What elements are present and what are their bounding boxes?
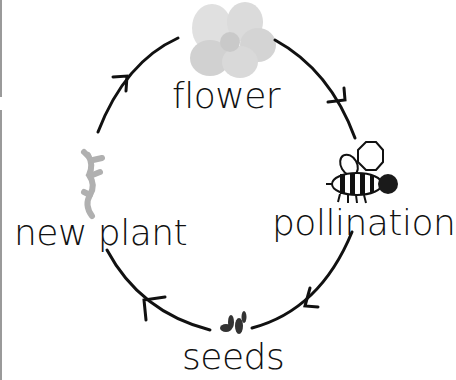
arrow-flower-to-pollination [275,40,355,138]
seeds-icon [220,311,247,334]
flower-icon [190,2,276,78]
stage-label-seeds: seeds [182,339,284,375]
stage-label-pollination: pollination [272,205,455,241]
arrow-pollination-to-seeds [252,232,352,328]
bee-icon [326,142,398,203]
sprout-icon [84,152,102,216]
arrow-new-plant-to-flower [98,38,178,132]
stage-label-new-plant: new plant [14,215,187,251]
life-cycle-diagram [0,0,456,380]
arrow-seeds-to-new-plant [107,250,210,330]
stage-label-flower: flower [172,78,280,114]
